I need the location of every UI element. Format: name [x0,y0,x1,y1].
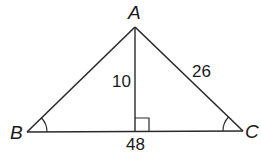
angle-mark-c [223,117,229,131]
triangle-diagram: A B C 10 26 48 [0,0,261,158]
side-ac-length-label: 26 [192,62,211,81]
triangle-figure: A B C 10 26 48 [0,0,261,158]
vertex-label-a: A [127,2,141,23]
altitude-length-label: 10 [112,72,131,91]
vertex-label-c: C [245,121,259,142]
side-ac [135,27,243,131]
vertex-label-b: B [10,122,23,143]
right-angle-marker [135,118,149,132]
side-bc-length-label: 48 [126,135,145,154]
angle-mark-b [42,118,48,132]
